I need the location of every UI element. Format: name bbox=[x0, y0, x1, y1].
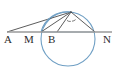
vertex-label-A: A bbox=[4, 34, 12, 45]
apex-point bbox=[70, 11, 72, 13]
vertex-label-M: M bbox=[24, 34, 34, 45]
angle-mark-left bbox=[67, 20, 71, 21]
segment-N-P bbox=[71, 12, 95, 32]
vertex-label-B: B bbox=[48, 34, 55, 45]
figure-canvas bbox=[0, 0, 118, 69]
vertex-label-N: N bbox=[103, 34, 111, 45]
geometry-figure: A M B N bbox=[0, 0, 118, 69]
segment-B-P bbox=[57, 12, 71, 32]
angle-mark-right bbox=[72, 20, 76, 22]
segment-A-P bbox=[7, 12, 71, 32]
